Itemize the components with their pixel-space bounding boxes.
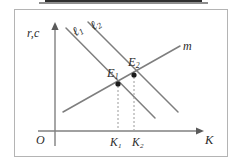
point-E1-sub: 1 [115,72,119,81]
point-E2-base: E [128,55,136,69]
point-label-E2: E2 [128,56,140,69]
point-E2-sub: 2 [136,61,140,70]
curve-label-m: m [183,40,192,52]
x-tick-K2-sub: 2 [140,142,144,150]
x-tick-label-K2: K2 [132,137,143,149]
x-axis-label: K [205,134,213,147]
point-E1-base: E [107,66,115,80]
figure-screenshot: r,c K O K1 K2 E1 E2 m ℓ1 ℓ2 [0,0,243,168]
x-axis-arrow-icon [196,127,204,134]
equilibrium-point-E2 [131,72,136,77]
x-tick-label-K1: K1 [110,137,121,149]
x-tick-K1-base: K [110,136,118,148]
equilibrium-point-E1 [115,81,120,86]
origin-label: O [36,134,45,146]
y-axis-label: r,c [27,27,40,39]
x-tick-K1-sub: 1 [118,142,122,150]
y-axis-arrow-icon [51,22,58,30]
point-label-E1: E1 [107,67,119,80]
x-tick-K2-base: K [132,136,140,148]
